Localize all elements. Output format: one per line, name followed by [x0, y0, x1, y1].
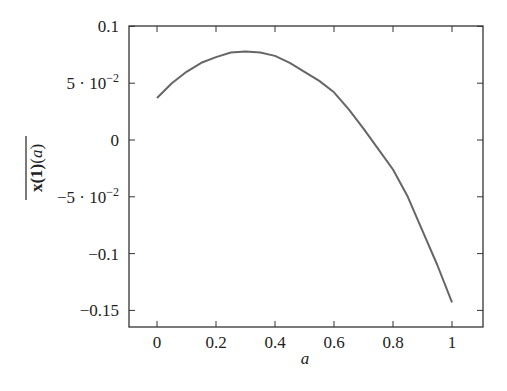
y-tick-label: 0: [111, 131, 120, 150]
svg-text:x(1)(a): x(1)(a): [27, 144, 46, 192]
plot-border: [129, 26, 483, 327]
y-tick-label: −0.1: [88, 245, 119, 264]
x-tick-label: 0.2: [205, 333, 226, 352]
plot-frame: [129, 26, 483, 327]
y-tick-label: 5 · 10−2: [67, 71, 119, 93]
y-tick-label: 0.1: [98, 17, 119, 36]
x-tick-label: 0.4: [264, 333, 286, 352]
axis-ticks: [129, 26, 483, 327]
y-tick-label: −0.15: [80, 301, 119, 320]
line-chart: 00.20.40.60.81 0.15 · 10−20−5 · 10−2−0.1…: [0, 0, 507, 391]
x-tick-label: 0.8: [382, 333, 403, 352]
y-axis-label: x(1)(a): [26, 136, 46, 200]
y-tick-labels: 0.15 · 10−20−5 · 10−2−0.1−0.15: [57, 17, 119, 320]
x-tick-label: 1: [448, 333, 457, 352]
data-series-line: [157, 51, 452, 302]
y-tick-label: −5 · 10−2: [57, 185, 119, 207]
x-tick-label: 0.6: [323, 333, 344, 352]
x-tick-label: 0: [153, 333, 162, 352]
x-axis-label: a: [301, 349, 310, 368]
